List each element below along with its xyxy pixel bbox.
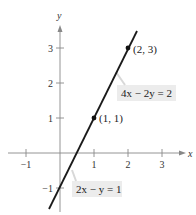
point-2-3 — [126, 46, 131, 51]
graph: −1 1 2 3 3 2 1 −1 x y (1, 1) (2, 3) 4x −… — [0, 0, 196, 215]
y-axis-label: y — [56, 10, 62, 21]
x-tick-label: −1 — [21, 159, 32, 170]
x-axis-label: x — [187, 148, 193, 159]
x-tick-label: 3 — [160, 159, 165, 170]
y-tick-label: 2 — [48, 78, 53, 89]
y-axis-arrow-icon — [58, 25, 63, 32]
y-tick-label: −1 — [42, 183, 53, 194]
x-tick-label: 1 — [92, 159, 97, 170]
equation-label-1: 4x − 2y = 2 — [121, 87, 172, 99]
point-1-1 — [92, 116, 97, 121]
point-label: (2, 3) — [133, 43, 157, 56]
x-tick-label: 2 — [126, 159, 131, 170]
y-tick-label: 1 — [48, 113, 53, 124]
x-axis-arrow-icon — [179, 151, 186, 156]
eq1-pointer — [116, 72, 125, 85]
equation-label-2: 2x − y = 1 — [76, 183, 121, 195]
y-tick-label: 3 — [48, 43, 53, 54]
point-label: (1, 1) — [99, 112, 123, 125]
eq2-pointer — [72, 170, 76, 181]
